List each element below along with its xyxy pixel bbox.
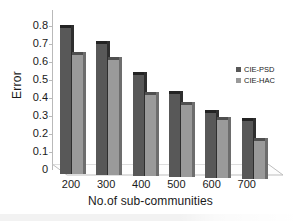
legend-item-cie-hac: CIE-HAC: [236, 75, 275, 86]
bar-face: [145, 95, 156, 176]
x-tick-600: 600: [192, 178, 232, 190]
bar-top-cap: [254, 138, 265, 141]
bar-face: [133, 75, 144, 176]
y-tick-0-3: 0.3: [22, 110, 48, 121]
bar-side-edge: [265, 138, 268, 179]
bar-face: [96, 44, 107, 175]
y-tick-0-6: 0.6: [22, 56, 48, 67]
y-tickmark: [49, 134, 53, 135]
bar-face: [205, 113, 216, 178]
bar-cie-psd-700: [242, 121, 253, 179]
bar-side-edge: [156, 92, 159, 176]
y-tick-0-2: 0.2: [22, 128, 48, 139]
bar-top-cap: [181, 102, 192, 105]
bar-top-cap: [242, 118, 253, 121]
bar-top-cap: [169, 91, 180, 94]
legend-swatch-icon: [236, 67, 241, 72]
y-tickmark: [49, 152, 53, 153]
x-tick-400: 400: [121, 178, 161, 190]
bar-top-cap: [217, 117, 228, 120]
scan-artifact: [0, 214, 301, 221]
legend-item-cie-psd: CIE-PSD: [236, 64, 275, 75]
bar-cie-psd-200: [60, 28, 71, 174]
bar-cie-psd-600: [205, 113, 216, 178]
x-tick-500: 500: [156, 178, 196, 190]
y-axis-line: [52, 10, 53, 170]
bar-cie-psd-300: [96, 44, 107, 175]
y-tick-0-4: 0.4: [22, 92, 48, 103]
legend-label: CIE-PSD: [244, 64, 274, 75]
y-tick-0-8: 0.8: [22, 20, 48, 31]
y-tick-0-5: 0.5: [22, 74, 48, 85]
bar-face: [60, 28, 71, 174]
bar-top-cap: [205, 110, 216, 113]
bar-side-edge: [119, 57, 122, 175]
y-tickmark: [49, 116, 53, 117]
legend: CIE-PSDCIE-HAC: [236, 64, 275, 86]
bar-side-edge: [228, 117, 231, 178]
bar-side-edge: [83, 52, 86, 174]
y-tickmark: [49, 62, 53, 63]
bar-face: [72, 55, 83, 174]
bar-cie-hac-700: [254, 141, 265, 179]
bar-side-edge: [192, 102, 195, 177]
y-tick-0: 0: [22, 164, 48, 175]
y-tickmark: [49, 98, 53, 99]
bar-cie-hac-200: [72, 55, 83, 174]
bar-cie-psd-400: [133, 75, 144, 176]
bar-face: [254, 141, 265, 179]
bar-top-cap: [60, 25, 71, 28]
bar-face: [242, 121, 253, 179]
bar-face: [181, 105, 192, 177]
bar-cie-hac-500: [181, 105, 192, 177]
y-tickmark: [49, 44, 53, 45]
bar-top-cap: [72, 52, 83, 55]
bar-face: [108, 60, 119, 175]
bar-top-cap: [145, 92, 156, 95]
bar-face: [217, 120, 228, 178]
bar-cie-hac-600: [217, 120, 228, 178]
bar-chart: Error 0.80.70.60.50.40.30.20.10 20030040…: [0, 0, 301, 221]
bar-face: [169, 94, 180, 177]
bar-top-cap: [108, 57, 119, 60]
y-axis-tick-labels: 0.80.70.60.50.40.30.20.10: [22, 0, 48, 221]
y-tickmark: [49, 26, 53, 27]
bar-cie-hac-400: [145, 95, 156, 176]
y-tick-0-7: 0.7: [22, 38, 48, 49]
bar-cie-hac-300: [108, 60, 119, 175]
bar-top-cap: [133, 72, 144, 75]
bar-cie-psd-500: [169, 94, 180, 177]
y-tickmark: [49, 80, 53, 81]
x-tick-700: 700: [227, 178, 267, 190]
bar-top-cap: [96, 41, 107, 44]
legend-label: CIE-HAC: [244, 75, 275, 86]
y-tick-0-1: 0.1: [22, 146, 48, 157]
x-tick-300: 300: [86, 178, 126, 190]
x-tick-200: 200: [51, 178, 91, 190]
x-axis-title: No.of sub-communities: [0, 194, 301, 208]
legend-swatch-icon: [236, 78, 241, 83]
plot-area: 200300400500600700: [52, 0, 284, 221]
